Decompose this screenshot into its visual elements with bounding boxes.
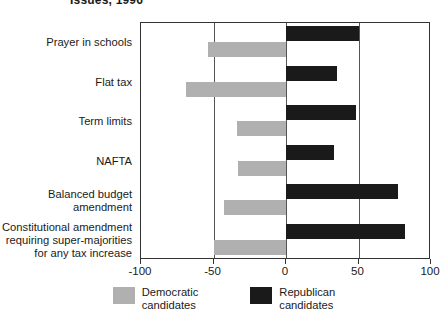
y-axis-label: Flat tax [95,76,132,89]
y-axis-label-line: Prayer in schools [46,36,132,49]
y-axis-label: NAFTA [96,155,132,168]
x-axis-tick-label: 50 [351,265,364,277]
legend-swatch-dem [113,287,135,304]
bar-row [141,23,429,63]
chart-legend: DemocraticcandidatesRepublicancandidates [0,286,448,311]
y-axis-label-line: Constitutional amendment [2,221,132,234]
legend-label-line: candidates [142,299,199,312]
bar-republican [286,145,334,160]
x-axis-tick-label: -50 [204,265,221,277]
x-axis-tick-label: -100 [128,265,151,277]
legend-swatch-rep [250,287,272,304]
bar-republican [286,224,405,239]
bar-row [141,63,429,103]
y-axis-label-line: amendment [48,201,132,214]
y-axis-label-line: for any tax increase [2,247,132,260]
x-axis-tick [213,259,214,264]
bar-republican [286,66,337,81]
y-axis-label: Constitutional amendmentrequiring super-… [2,221,132,260]
y-axis-label-line: Flat tax [95,76,132,89]
bar-democratic [186,82,286,97]
legend-label: Democraticcandidates [142,286,199,311]
legend-label-line: candidates [279,299,335,312]
x-axis-tick-label: 0 [282,265,288,277]
bar-row [141,221,429,261]
legend-item: Republicancandidates [250,286,335,311]
y-axis-label-line: Balanced budget [48,188,132,201]
y-axis-label-line: requiring super-majorities [2,234,132,247]
bar-republican [286,184,398,199]
y-axis-label: Term limits [79,115,132,128]
y-axis-label: Balanced budgetamendment [48,188,132,214]
x-axis-tick [140,259,141,264]
bar-democratic [238,161,286,176]
bar-row [141,181,429,221]
legend-label-line: Republican [279,286,335,299]
legend-item: Democraticcandidates [113,286,199,311]
y-axis-label-line: NAFTA [96,155,132,168]
bar-democratic [224,200,286,215]
bar-row [141,102,429,142]
y-axis-label: Prayer in schools [46,36,132,49]
x-axis: -100-50050100 [140,259,430,283]
plot-area [140,22,430,259]
bar-democratic [237,121,286,136]
x-axis-tick [430,259,431,264]
bar-democratic [214,240,287,255]
x-axis-tick-label: 100 [420,265,439,277]
x-axis-tick [358,259,359,264]
bar-republican [286,105,356,120]
legend-label-line: Democratic [142,286,199,299]
y-axis-label-line: Term limits [79,115,132,128]
bar-row [141,142,429,182]
bar-republican [286,26,359,41]
bar-democratic [208,42,286,57]
y-axis-category-labels: Prayer in schoolsFlat taxTerm limitsNAFT… [0,22,135,259]
legend-label: Republicancandidates [279,286,335,311]
chart-title: Issues, 1996 [70,0,143,7]
x-axis-tick [285,259,286,264]
